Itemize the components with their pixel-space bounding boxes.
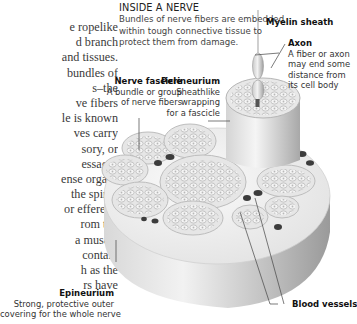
label-desc: may end some bbox=[288, 59, 350, 70]
label-desc: distance from bbox=[288, 70, 350, 81]
label-desc: Strong, protective outer bbox=[0, 299, 114, 310]
intro-line: protect them from damage. bbox=[119, 37, 284, 49]
label-title: Myelin sheath bbox=[266, 17, 333, 28]
label-desc: covering for the whole nerve bbox=[0, 309, 114, 320]
label-desc: A fiber or axon bbox=[288, 49, 350, 60]
myelin-segment bbox=[252, 80, 264, 100]
label-axon: Axon A fiber or axon may end some distan… bbox=[288, 38, 350, 91]
label-title: Blood vessels bbox=[292, 299, 357, 310]
label-perineurium: Perineurium Sheathlike wrapping for a fa… bbox=[160, 76, 220, 118]
label-title: Axon bbox=[288, 38, 350, 49]
myelin-segment bbox=[253, 53, 264, 79]
label-epineurium: Epineurium Strong, protective outer cove… bbox=[0, 288, 114, 320]
intro-line: within tough connective tissue to bbox=[119, 26, 284, 38]
label-desc: wrapping bbox=[160, 97, 220, 108]
label-desc: Sheathlike bbox=[160, 87, 220, 98]
intro-line: Bundles of nerve fibers are embedded bbox=[119, 14, 284, 26]
label-blood-vessels: Blood vessels bbox=[292, 299, 357, 310]
label-desc: for a fascicle bbox=[160, 108, 220, 119]
label-desc: its cell body bbox=[288, 80, 350, 91]
inset-intro: Bundles of nerve fibers are embedded wit… bbox=[119, 14, 284, 49]
inset-heading: INSIDE A NERVE bbox=[119, 2, 199, 13]
label-myelin-sheath: Myelin sheath bbox=[266, 17, 333, 28]
label-title: Perineurium bbox=[160, 76, 220, 87]
label-title: Epineurium bbox=[0, 288, 114, 299]
